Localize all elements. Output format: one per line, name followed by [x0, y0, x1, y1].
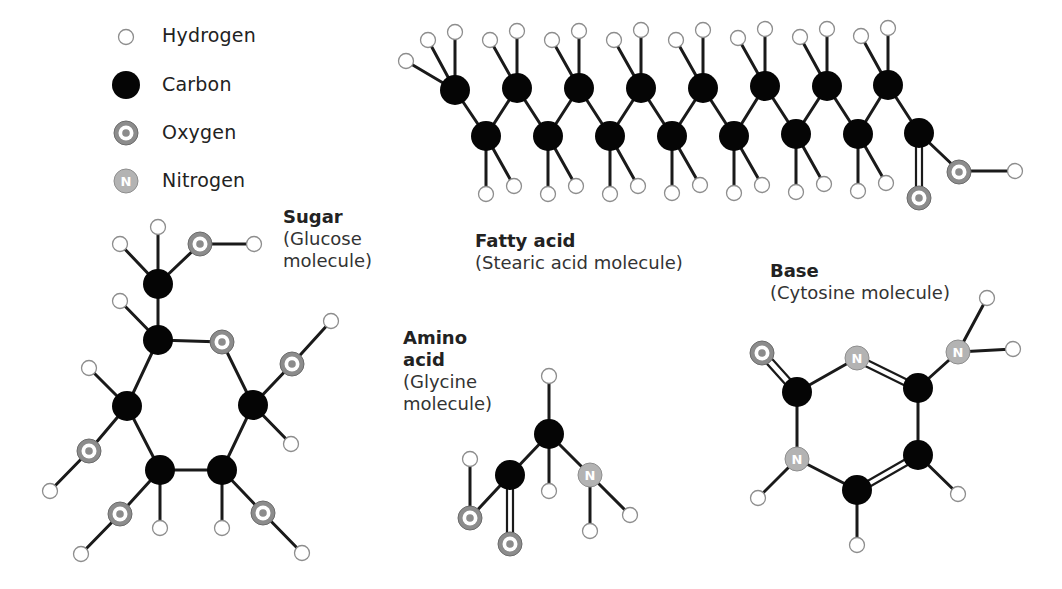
svg-text:N: N: [121, 174, 132, 189]
nitrogen-atom-icon: N: [114, 169, 138, 193]
cytosine-molecule: N N N: [750, 291, 1021, 553]
amino-acid-subtitle-line1: (Glycine: [403, 371, 492, 393]
fatty-acid-molecule: [399, 21, 1023, 211]
amino-acid-subtitle-line2: molecule): [403, 393, 492, 415]
legend-label-oxygen: Oxygen: [162, 121, 236, 143]
amino-acid-label: Amino acid (Glycine molecule): [403, 327, 492, 415]
svg-text:N: N: [585, 468, 596, 483]
base-label: Base (Cytosine molecule): [770, 260, 950, 304]
oxygen-atom-icon: [114, 121, 138, 145]
legend: N: [112, 30, 140, 194]
hydrogen-atom-icon: [119, 30, 134, 45]
sugar-subtitle-line2: molecule): [283, 250, 372, 272]
base-title: Base: [770, 260, 950, 282]
fatty-acid-label: Fatty acid (Stearic acid molecule): [475, 230, 683, 274]
sugar-subtitle-line1: (Glucose: [283, 228, 372, 250]
svg-text:N: N: [953, 345, 964, 360]
legend-label-carbon: Carbon: [162, 73, 232, 95]
amino-acid-title-line1: Amino: [403, 327, 492, 349]
sugar-label: Sugar (Glucose molecule): [283, 206, 372, 272]
base-subtitle: (Cytosine molecule): [770, 282, 950, 304]
fatty-acid-title: Fatty acid: [475, 230, 683, 252]
sugar-title: Sugar: [283, 206, 372, 228]
fatty-acid-subtitle: (Stearic acid molecule): [475, 252, 683, 274]
legend-label-hydrogen: Hydrogen: [162, 24, 256, 46]
svg-text:N: N: [792, 452, 803, 467]
carbon-atom-icon: [112, 71, 140, 99]
amino-acid-title-line2: acid: [403, 349, 492, 371]
legend-label-nitrogen: Nitrogen: [162, 169, 245, 191]
svg-text:N: N: [852, 351, 863, 366]
